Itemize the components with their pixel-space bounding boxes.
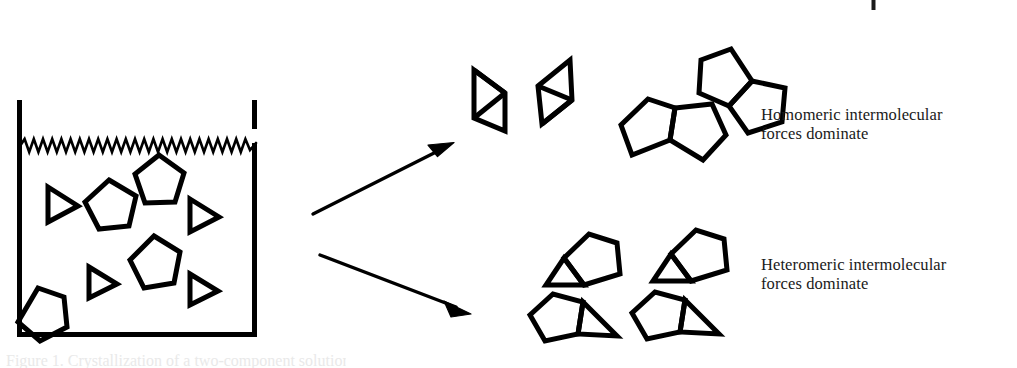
heteromeric-product-group [530, 230, 727, 341]
heterodimer-complex [632, 292, 719, 339]
solute-triangle [48, 187, 78, 222]
solute-pentagon [130, 236, 180, 288]
triangle-dimer [474, 70, 505, 131]
solute-triangle [190, 199, 219, 232]
heteromeric-label: Heteromeric intermolecular forces domina… [761, 255, 946, 293]
beaker-container [17, 100, 257, 341]
heterodimer-complex [530, 294, 617, 341]
triangle-dimer [538, 60, 572, 124]
zigzag-waterline [20, 139, 256, 152]
homomeric-label: Homomeric intermolecular forces dominate [761, 105, 943, 143]
homomeric-label-line-2: forces dominate [761, 124, 943, 143]
heteromeric-label-line-1: Heteromeric intermolecular [761, 255, 946, 274]
heterodimer-complex [546, 234, 620, 285]
homomeric-product-group [474, 49, 785, 160]
clipped-caption-text: Figure 1. Crystallization of a two-compo… [6, 352, 346, 368]
heteromeric-label-line-2: forces dominate [761, 274, 946, 293]
solute-pentagon [135, 155, 184, 203]
beaker-molecule-group [18, 155, 219, 341]
heterodimer-complex [653, 230, 727, 281]
transformation-arrows [313, 143, 471, 318]
diagram-canvas [0, 0, 1017, 368]
arrow-to-homomeric [313, 143, 454, 215]
arrow-to-heteromeric [320, 255, 471, 317]
solute-triangle [190, 274, 218, 305]
homomeric-label-line-1: Homomeric intermolecular [761, 105, 943, 124]
solute-triangle [89, 267, 117, 298]
figure-root: Homomeric intermolecular forces dominate… [0, 0, 1017, 368]
pentagon-dimer [621, 99, 726, 160]
solute-pentagon [85, 180, 136, 229]
